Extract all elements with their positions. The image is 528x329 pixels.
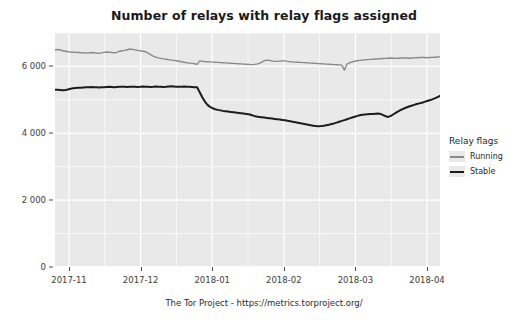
y-tick-mark: [49, 66, 53, 67]
legend-item-stable[interactable]: Stable: [449, 166, 527, 177]
x-tick-mark: [69, 267, 70, 271]
y-tick-label: 0: [41, 262, 46, 272]
x-tick-label: 2017-11: [51, 275, 87, 285]
series-line-stable: [55, 86, 440, 126]
plot-panel: [55, 33, 440, 267]
footer-caption: The Tor Project - https://metrics.torpro…: [0, 298, 528, 308]
chart-title: Number of relays with relay flags assign…: [0, 8, 528, 23]
x-tick-mark: [284, 267, 285, 271]
x-tick-mark: [212, 267, 213, 271]
chart-container: Number of relays with relay flags assign…: [0, 0, 528, 329]
y-tick-label: 4 000: [22, 128, 46, 138]
series-lines: [55, 33, 440, 267]
legend-swatch-icon: [449, 166, 465, 177]
x-tick-mark: [427, 267, 428, 271]
x-tick-label: 2018-02: [266, 275, 302, 285]
legend: Relay flags RunningStable: [449, 136, 527, 181]
y-tick-mark: [49, 133, 53, 134]
legend-item-label: Stable: [470, 167, 495, 176]
x-tick-label: 2018-03: [338, 275, 374, 285]
x-tick-label: 2018-04: [409, 275, 445, 285]
y-tick-label: 6 000: [22, 61, 46, 71]
x-axis: 2017-112017-122018-012018-022018-032018-…: [55, 267, 440, 291]
series-line-running: [55, 49, 440, 70]
x-tick-label: 2018-01: [194, 275, 230, 285]
legend-title: Relay flags: [449, 136, 527, 146]
legend-item-label: Running: [470, 152, 503, 161]
legend-swatch-icon: [449, 151, 465, 162]
x-tick-mark: [355, 267, 356, 271]
x-tick-label: 2017-12: [123, 275, 159, 285]
legend-item-list: RunningStable: [449, 151, 527, 177]
y-tick-mark: [49, 200, 53, 201]
y-axis: 02 0004 0006 000: [0, 33, 55, 267]
legend-item-running[interactable]: Running: [449, 151, 527, 162]
x-tick-mark: [141, 267, 142, 271]
y-tick-mark: [49, 267, 53, 268]
y-tick-label: 2 000: [22, 195, 46, 205]
